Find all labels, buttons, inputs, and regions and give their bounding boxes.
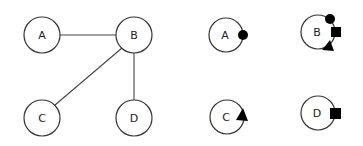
node-b: B: [116, 17, 152, 53]
node-label: B: [313, 26, 321, 39]
node-a: A: [24, 17, 60, 53]
circle-port-icon: [325, 14, 335, 24]
square-port-icon: [331, 27, 341, 37]
square-port-icon: [330, 108, 341, 119]
decomposed-node-a: A: [209, 18, 248, 52]
node-c: C: [24, 100, 60, 136]
graph-diagram: A B C D A B C D: [0, 0, 363, 146]
node-d: D: [116, 100, 152, 136]
decomposed-node-c: C: [210, 100, 248, 134]
node-label: A: [38, 29, 46, 42]
node-label: D: [313, 107, 321, 120]
node-label: D: [130, 112, 138, 125]
node-label: A: [221, 29, 229, 42]
node-label: B: [130, 29, 138, 42]
node-label: C: [222, 111, 230, 124]
node-label: C: [38, 112, 46, 125]
edge-b-c: [55, 48, 122, 105]
decomposed-node-b: B: [301, 14, 341, 51]
circle-port-icon: [238, 30, 248, 40]
decomposed-node-d: D: [301, 96, 341, 130]
